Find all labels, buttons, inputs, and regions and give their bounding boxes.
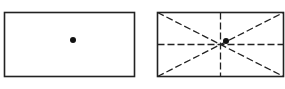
right-dot xyxy=(223,38,229,44)
right-panel xyxy=(158,13,284,77)
left-rectangle xyxy=(5,13,135,77)
left-dot xyxy=(70,37,76,43)
left-panel xyxy=(5,13,135,77)
diagram xyxy=(0,0,285,89)
